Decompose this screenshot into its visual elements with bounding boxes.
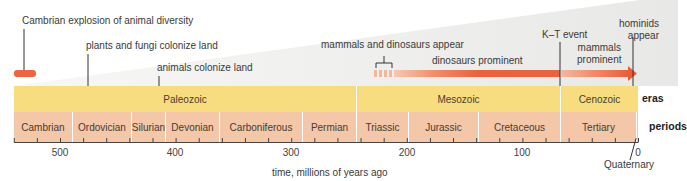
label-hominids: hominids appear xyxy=(609,18,659,42)
label-kt-event: K–T event xyxy=(542,29,587,41)
era-paleozoic: Paleozoic xyxy=(14,86,356,112)
tick-label-0: 0 xyxy=(635,147,641,158)
label-cambrian-explosion: Cambrian explosion of animal diversity xyxy=(22,15,193,27)
cambrian-bar xyxy=(14,70,36,77)
label-plants-fungi: plants and fungi colonize land xyxy=(86,40,218,52)
tick-label-300: 300 xyxy=(283,147,300,158)
tick-label-500: 500 xyxy=(52,147,69,158)
tick-label-400: 400 xyxy=(167,147,184,158)
label-dinosaurs-prominent: dinosaurs prominent xyxy=(432,55,523,67)
dinosaurs-bar xyxy=(394,70,560,77)
label-mammals-prominent: mammals prominent xyxy=(577,42,621,66)
periods-row-label: periods xyxy=(649,120,687,132)
label-animals-land: animals colonize land xyxy=(157,62,253,74)
mammals-bar xyxy=(561,70,629,77)
label-mammals-dinos: mammals and dinosaurs appear xyxy=(321,39,464,51)
mammals-prominent-line1: mammals xyxy=(577,42,621,54)
era-mesozoic: Mesozoic xyxy=(356,86,560,112)
axis-title: time, millions of years ago xyxy=(272,167,388,179)
label-quaternary: Quaternary xyxy=(604,159,654,171)
era-cenozoic: Cenozoic xyxy=(560,86,638,112)
eras-row-label: eras xyxy=(642,92,664,104)
hominids-line2: appear xyxy=(609,30,659,42)
tick-label-200: 200 xyxy=(399,147,416,158)
tick-label-100: 100 xyxy=(514,147,531,158)
mammals-prominent-line2: prominent xyxy=(577,54,621,66)
hominids-line1: hominids xyxy=(609,18,659,30)
